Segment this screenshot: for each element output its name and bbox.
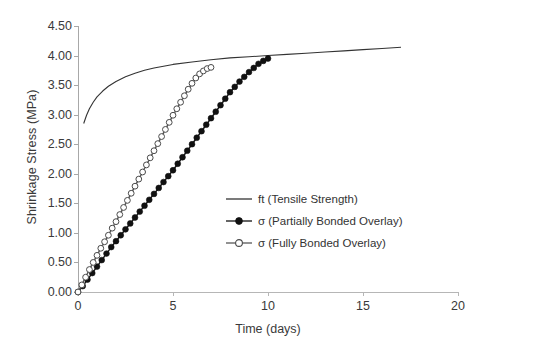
data-point-marker — [178, 99, 184, 105]
legend-key-icon — [224, 192, 254, 206]
data-point-marker — [203, 122, 209, 128]
data-point-marker — [182, 93, 188, 99]
data-point-marker — [113, 238, 119, 244]
data-point-marker — [170, 112, 176, 118]
data-point-marker — [163, 127, 169, 133]
data-point-marker — [151, 148, 157, 154]
legend-label: σ (Partially Bonded Overlay) — [258, 215, 403, 227]
y-tick-label: 2.00 — [30, 168, 72, 181]
data-point-marker — [194, 135, 200, 141]
data-point-marker — [208, 115, 214, 121]
legend-item: ft (Tensile Strength) — [224, 188, 439, 210]
y-tick-label: 3.00 — [30, 109, 72, 122]
data-point-marker — [132, 215, 138, 221]
x-tick-mark — [458, 292, 459, 296]
data-point-marker — [232, 84, 238, 90]
data-point-marker — [136, 176, 142, 182]
x-tick-label: 5 — [153, 300, 193, 313]
data-point-marker — [213, 109, 219, 115]
data-point-marker — [189, 141, 195, 147]
data-point-marker — [137, 209, 143, 215]
y-tick-label: 0.00 — [30, 286, 72, 299]
data-point-marker — [99, 257, 105, 263]
data-point-marker — [237, 79, 243, 85]
y-tick-label: 0.50 — [30, 256, 72, 269]
data-point-marker — [151, 191, 157, 197]
data-point-marker — [108, 244, 114, 250]
series-line — [84, 47, 401, 123]
legend-item: σ (Partially Bonded Overlay) — [224, 210, 439, 232]
data-point-marker — [170, 167, 176, 173]
data-point-marker — [184, 148, 190, 154]
data-point-marker — [109, 225, 115, 231]
data-point-marker — [185, 86, 191, 92]
data-point-marker — [104, 251, 110, 257]
legend-label: ft (Tensile Strength) — [258, 193, 358, 205]
legend-key-icon — [224, 214, 254, 228]
data-point-marker — [140, 169, 146, 175]
x-axis-title: Time (days) — [78, 322, 458, 336]
data-point-marker — [241, 74, 247, 80]
shrinkage-stress-chart: Shrinkage Stress (MPa) 0.000.501.001.502… — [0, 0, 541, 346]
data-point-marker — [199, 128, 205, 134]
data-point-marker — [94, 252, 100, 258]
y-tick-label: 3.50 — [30, 79, 72, 92]
legend-label: σ (Fully Bonded Overlay) — [258, 237, 386, 249]
data-point-marker — [218, 102, 224, 108]
data-point-marker — [144, 162, 150, 168]
y-tick-label: 4.00 — [30, 50, 72, 63]
data-point-marker — [123, 226, 129, 232]
data-point-marker — [117, 212, 123, 218]
data-point-marker — [121, 205, 127, 211]
data-point-marker — [174, 106, 180, 112]
y-axis-tick-labels: 0.000.501.001.502.002.503.003.504.004.50 — [28, 0, 72, 346]
data-point-marker — [113, 219, 119, 225]
data-point-marker — [102, 239, 108, 245]
x-tick-label: 20 — [438, 300, 478, 313]
data-point-marker — [106, 232, 112, 238]
data-point-marker — [175, 161, 181, 167]
data-point-marker — [83, 274, 89, 280]
data-point-marker — [147, 155, 153, 161]
data-point-marker — [155, 141, 161, 147]
data-point-marker — [265, 56, 271, 62]
x-tick-mark — [268, 292, 269, 296]
data-point-marker — [142, 203, 148, 209]
data-point-marker — [132, 183, 138, 189]
data-point-marker — [75, 289, 81, 295]
data-point-marker — [87, 267, 93, 273]
data-point-marker — [222, 96, 228, 102]
y-tick-label: 1.50 — [30, 197, 72, 210]
y-tick-label: 4.50 — [30, 20, 72, 33]
data-point-marker — [251, 65, 257, 71]
data-point-marker — [128, 190, 134, 196]
data-point-marker — [98, 245, 104, 251]
data-point-marker — [79, 282, 85, 288]
x-tick-label: 0 — [58, 300, 98, 313]
legend-item: σ (Fully Bonded Overlay) — [224, 232, 439, 254]
data-point-marker — [227, 89, 233, 95]
data-point-marker — [180, 154, 186, 160]
legend-key-icon — [224, 236, 254, 250]
y-tick-label: 2.50 — [30, 138, 72, 151]
data-point-marker — [161, 179, 167, 185]
x-tick-mark — [363, 292, 364, 296]
data-point-marker — [189, 80, 195, 86]
data-point-marker — [159, 134, 165, 140]
data-point-marker — [246, 69, 252, 75]
x-axis-tick-labels: 05101520 — [0, 300, 541, 320]
data-point-marker — [165, 173, 171, 179]
data-point-marker — [90, 260, 96, 266]
data-point-marker — [118, 232, 124, 238]
data-point-marker — [125, 197, 131, 203]
x-tick-label: 10 — [248, 300, 288, 313]
data-point-marker — [146, 197, 152, 203]
data-point-marker — [166, 119, 172, 125]
x-tick-label: 15 — [343, 300, 383, 313]
x-tick-mark — [173, 292, 174, 296]
data-point-marker — [208, 64, 214, 70]
chart-legend: ft (Tensile Strength)σ (Partially Bonded… — [224, 188, 439, 254]
y-tick-label: 1.00 — [30, 227, 72, 240]
data-point-marker — [156, 185, 162, 191]
data-point-marker — [127, 221, 133, 227]
